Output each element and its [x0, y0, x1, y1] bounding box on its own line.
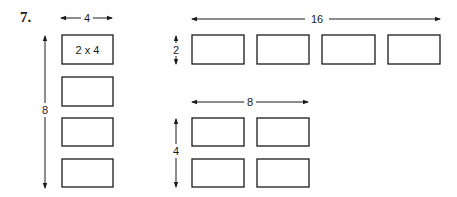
- rectangle: [257, 35, 309, 64]
- height-label-bottom: 4: [173, 145, 179, 157]
- rectangle: [388, 35, 440, 64]
- rectangle-label: 2 x 4: [76, 44, 100, 56]
- rectangle: [257, 159, 309, 187]
- diagram-canvas: 7. 4 8 2 x 4 16 2 8 4: [0, 0, 457, 197]
- rectangle: [192, 159, 244, 187]
- bottom-right-group: 8 4: [170, 95, 309, 187]
- rectangle: [62, 118, 113, 146]
- height-label-top: 2: [173, 44, 179, 56]
- width-label-left: 4: [84, 12, 90, 24]
- height-label-left: 8: [42, 104, 48, 116]
- rectangle: [62, 77, 113, 106]
- problem-number: 7.: [20, 9, 32, 25]
- width-label-top: 16: [311, 13, 323, 25]
- rectangle: [257, 118, 309, 146]
- left-group: 4 8 2 x 4: [39, 11, 113, 188]
- rectangle: [192, 35, 244, 64]
- rectangle: [192, 118, 244, 146]
- top-right-group: 16 2: [171, 12, 440, 64]
- rectangle: [62, 159, 113, 187]
- rectangle: [322, 35, 375, 64]
- width-label-bottom: 8: [247, 96, 253, 108]
